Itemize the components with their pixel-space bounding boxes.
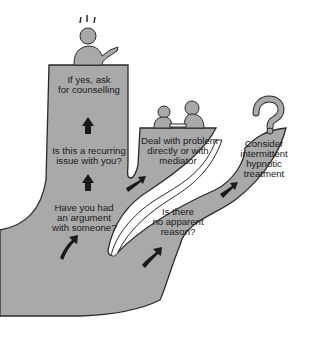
node-line: issue with you? bbox=[52, 156, 126, 166]
node-argument: Have you had an argument with someone? bbox=[52, 203, 116, 233]
node-line: mediator bbox=[141, 156, 215, 166]
node-line: treatment bbox=[232, 169, 296, 179]
node-line: with someone? bbox=[52, 223, 116, 233]
node-hypnotic: Consider intermittent hypnotic treatment bbox=[232, 139, 296, 179]
two-people-icon bbox=[154, 101, 204, 128]
trunk-shape bbox=[0, 65, 286, 316]
person-gesturing-icon bbox=[74, 15, 118, 65]
node-line: for counselling bbox=[56, 85, 122, 95]
node-recurring: Is this a recurring issue with you? bbox=[52, 146, 126, 166]
node-line: reason? bbox=[148, 227, 208, 237]
node-no-reason: Is there no apparent reason? bbox=[148, 207, 208, 237]
node-deal: Deal with problem directly or with media… bbox=[141, 136, 215, 166]
node-counselling: Consider If yes, ask for counselling bbox=[56, 75, 122, 95]
